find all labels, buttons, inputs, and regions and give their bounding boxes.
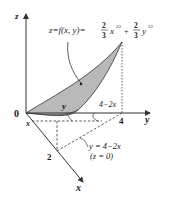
strip-height-label: 4−2x	[99, 100, 116, 109]
coef1-den: 3	[102, 31, 106, 40]
exp2: 3/2	[148, 24, 153, 29]
plane-note-label: (z = 0)	[90, 151, 113, 161]
var1: x	[109, 26, 114, 36]
line-leader	[80, 138, 88, 147]
x-near-origin-label: x	[25, 119, 30, 128]
coef2-den: 3	[134, 31, 138, 40]
leader-dot	[80, 83, 83, 86]
surface-diagram: z 0 y x 4 2 x y 4−2x y = 4−2x (z = 0) z=…	[0, 0, 170, 201]
coef2-num: 2	[134, 21, 138, 30]
x-axis-label: x	[75, 182, 81, 193]
plus-sign: +	[124, 27, 129, 36]
surface-formula: z=f(x, y)= 2 3 x 3/2 + 2 3 y 3/2	[48, 21, 153, 40]
line-equation-label: y = 4−2x	[88, 141, 121, 151]
coef1-num: 2	[102, 21, 106, 30]
x-axis	[26, 113, 83, 182]
formula-leader	[68, 42, 81, 83]
z-axis-label: z	[14, 11, 19, 21]
var2: y	[141, 26, 146, 36]
strip-brace	[93, 113, 98, 121]
formula-lhs: z=f(x, y)=	[48, 25, 86, 35]
origin-label: 0	[14, 108, 19, 119]
y-tick-4: 4	[119, 116, 124, 126]
x-tick-2: 2	[47, 152, 52, 162]
exp1: 3/2	[116, 24, 121, 29]
y-axis-label: y	[144, 114, 150, 125]
